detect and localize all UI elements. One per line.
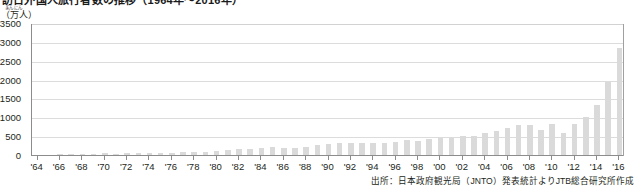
x-axis-tick-mark: [618, 156, 619, 160]
x-axis-tick-mark: [283, 156, 284, 160]
x-axis-tick-mark: [596, 156, 597, 160]
bar: [527, 125, 533, 156]
x-axis-tick-label: '02: [456, 162, 468, 172]
x-axis-tick-label: '84: [254, 162, 266, 172]
bar: [404, 140, 410, 156]
bar: [538, 130, 544, 156]
x-axis-tick-label: '80: [209, 162, 221, 172]
bar: [460, 136, 466, 156]
source-note: 出所：日本政府観光局（JNTO）発表統計よりJTB総合研究所作成: [371, 174, 634, 186]
bar: [561, 133, 567, 156]
bar: [471, 136, 477, 156]
x-axis-tick-mark: [260, 156, 261, 160]
bar-chart: 0500100015002000250030003500 '64'66'68'7…: [0, 0, 637, 187]
bar: [482, 133, 488, 156]
x-axis-tick-mark: [81, 156, 82, 160]
x-axis-tick-mark: [439, 156, 440, 160]
bar: [415, 141, 421, 157]
x-axis-tick-label: '92: [344, 162, 356, 172]
x-axis-tick-mark: [507, 156, 508, 160]
x-axis-tick-mark: [417, 156, 418, 160]
x-axis-tick-label: '90: [321, 162, 333, 172]
x-axis-tick-mark: [216, 156, 217, 160]
x-axis-tick-mark: [529, 156, 530, 160]
x-axis-tick-mark: [551, 156, 552, 160]
bar: [605, 82, 611, 156]
bar: [494, 131, 500, 156]
x-axis-tick-mark: [305, 156, 306, 160]
x-axis-tick-label: '00: [433, 162, 445, 172]
x-axis-tick-mark: [59, 156, 60, 160]
x-axis-tick-mark: [148, 156, 149, 160]
y-axis-tick-label: 2500: [0, 57, 21, 67]
y-axis-tick-label: 1500: [0, 95, 21, 105]
x-axis-tick-mark: [328, 156, 329, 160]
x-axis-tick-label: '04: [478, 162, 490, 172]
y-axis-tick-label: 3000: [0, 38, 21, 48]
x-axis-tick-label: '14: [590, 162, 602, 172]
y-axis-tick-label: 3500: [0, 19, 21, 29]
x-axis-tick-mark: [37, 156, 38, 160]
bar: [505, 128, 511, 156]
x-axis-tick-label: '06: [500, 162, 512, 172]
x-axis-tick-label: '64: [30, 162, 42, 172]
x-axis-tick-label: '78: [187, 162, 199, 172]
x-axis-tick-label: '74: [142, 162, 154, 172]
x-axis-tick-label: '68: [75, 162, 87, 172]
x-axis-tick-label: '96: [388, 162, 400, 172]
x-axis-tick-label: '10: [545, 162, 557, 172]
x-axis-tick-label: '12: [567, 162, 579, 172]
x-axis-tick-label: '94: [366, 162, 378, 172]
x-axis-tick-label: '66: [53, 162, 65, 172]
x-axis-tick-mark: [238, 156, 239, 160]
x-axis-tick-mark: [350, 156, 351, 160]
bar: [594, 105, 600, 156]
bar: [617, 48, 623, 156]
x-axis-tick-label: '16: [612, 162, 624, 172]
bar: [449, 138, 455, 156]
plot-area: [31, 24, 624, 156]
x-axis-tick-label: '98: [411, 162, 423, 172]
bar: [426, 139, 432, 156]
x-axis-tick-label: '82: [232, 162, 244, 172]
bar: [438, 138, 444, 156]
y-axis-tick-label: 0: [0, 151, 21, 161]
x-axis-tick-label: '70: [98, 162, 110, 172]
y-axis-tick-label: 500: [0, 132, 21, 142]
x-axis-tick-label: '86: [277, 162, 289, 172]
bar: [572, 124, 578, 156]
x-axis-tick-mark: [574, 156, 575, 160]
y-axis-tick-label: 2000: [0, 76, 21, 86]
x-axis-tick-mark: [395, 156, 396, 160]
x-axis-tick-mark: [372, 156, 373, 160]
x-axis-tick-mark: [462, 156, 463, 160]
bar: [516, 125, 522, 156]
x-axis-tick-mark: [126, 156, 127, 160]
x-axis-tick-mark: [171, 156, 172, 160]
x-axis-tick-label: '72: [120, 162, 132, 172]
bar: [583, 117, 589, 156]
x-axis-tick-label: '76: [165, 162, 177, 172]
bar: [549, 124, 555, 156]
x-axis-tick-label: '88: [299, 162, 311, 172]
bar-series: [32, 24, 623, 156]
x-axis-tick-mark: [193, 156, 194, 160]
y-axis-tick-label: 1000: [0, 114, 21, 124]
x-axis-tick-label: '08: [523, 162, 535, 172]
x-axis-tick-mark: [104, 156, 105, 160]
x-axis-tick-mark: [484, 156, 485, 160]
